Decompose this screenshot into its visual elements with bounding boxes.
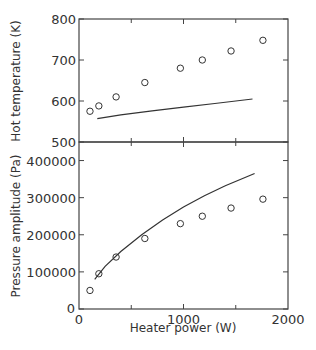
- y-axis-label-top: Hot temperature (K): [9, 20, 23, 141]
- x-tick-label: 0: [75, 312, 83, 327]
- y-tick-label: 800: [51, 12, 76, 27]
- y-tick-label: 600: [51, 94, 76, 109]
- data-point: [87, 287, 93, 293]
- data-point: [177, 220, 183, 226]
- x-tick-label: 2000: [271, 312, 304, 327]
- y-tick-label: 700: [51, 53, 76, 68]
- data-point: [228, 48, 234, 54]
- data-point: [199, 57, 205, 63]
- data-point: [113, 254, 119, 260]
- data-point: [142, 79, 148, 85]
- data-point: [260, 196, 266, 202]
- model-line: [97, 99, 252, 119]
- data-point: [177, 65, 183, 71]
- y-tick-label: 200000: [26, 228, 76, 243]
- model-line: [95, 174, 255, 280]
- data-point: [113, 94, 119, 100]
- data-point: [228, 205, 234, 211]
- data-point: [199, 213, 205, 219]
- y-tick-label: 100000: [26, 265, 76, 280]
- x-axis-label: Heater power (W): [130, 321, 237, 335]
- y-tick-label: 400000: [26, 154, 76, 169]
- y-tick-label: 500: [51, 135, 76, 150]
- y-tick-label: 300000: [26, 191, 76, 206]
- bottom-panel-frame: 1000002000003000004000000010002000: [26, 142, 304, 327]
- chart: 5006007008001000002000003000004000000010…: [0, 0, 316, 350]
- data-point: [142, 235, 148, 241]
- data-point: [87, 108, 93, 114]
- top-panel-frame: 500600700800: [51, 12, 288, 150]
- series: [87, 37, 266, 294]
- data-point: [96, 103, 102, 109]
- data-point: [260, 37, 266, 43]
- axes: 5006007008001000002000003000004000000010…: [26, 12, 304, 327]
- y-axis-label-bottom: Pressure amplitude (Pa): [9, 155, 23, 298]
- y-tick-label: 0: [67, 301, 75, 316]
